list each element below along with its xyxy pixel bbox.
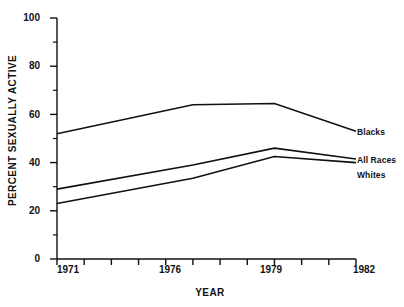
x-axis-title: YEAR — [195, 287, 224, 298]
series-line-whites — [57, 157, 356, 204]
x-tick-label-1971: 1971 — [48, 264, 88, 275]
y-tick-label-20: 20 — [14, 205, 40, 216]
series-label-all-races: All Races — [357, 155, 396, 165]
plot-canvas — [0, 0, 404, 307]
series-line-blacks — [57, 104, 356, 134]
x-tick-label-1979: 1979 — [251, 264, 291, 275]
axes — [50, 18, 356, 265]
y-tick-label-60: 60 — [14, 109, 40, 120]
y-tick-label-40: 40 — [14, 157, 40, 168]
series-label-whites: Whites — [357, 170, 385, 180]
x-axis-title-wrapper: YEAR — [55, 282, 365, 300]
x-tick-label-1982: 1982 — [344, 264, 384, 275]
series-line-all-races — [57, 148, 356, 189]
y-tick-label-100: 100 — [14, 12, 40, 23]
y-tick-label-80: 80 — [14, 60, 40, 71]
x-tick-label-1976: 1976 — [150, 264, 190, 275]
chart-figure: PERCENT SEXUALLY ACTIVE YEAR 100 80 60 4… — [0, 0, 404, 307]
y-axis-title: PERCENT SEXUALLY ACTIVE — [8, 54, 19, 205]
y-tick-label-0: 0 — [14, 253, 40, 264]
y-axis-title-wrapper: PERCENT SEXUALLY ACTIVE — [0, 0, 26, 260]
series-label-blacks: Blacks — [357, 127, 385, 137]
series-lines — [57, 104, 356, 204]
